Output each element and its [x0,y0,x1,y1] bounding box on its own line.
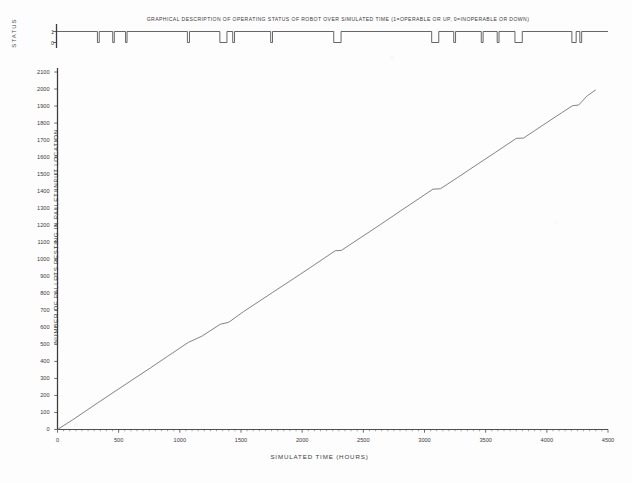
y-tick-label: 600 [24,324,50,330]
y-tick-label: 1300 [24,205,50,211]
y-tick-label: 800 [24,290,50,296]
pallets-data-line [58,90,596,430]
pallets-chart: NUMBER OF PALLETS RESTING IN PALLET INPU… [0,58,632,483]
status-plot-svg [0,8,632,60]
y-tick-label: 1000 [24,256,50,262]
x-tick-label: 2000 [287,437,317,443]
y-tick-label: 1700 [24,137,50,143]
y-tick-label: 1900 [24,103,50,109]
pallets-plot-svg [0,58,632,483]
x-tick-label: 0 [43,437,73,443]
y-tick-label: 100 [24,409,50,415]
y-tick-label: 0 [24,426,50,432]
y-tick-label: 1600 [24,154,50,160]
plot-page: GRAPHICAL DESCRIPTION OF OPERATING STATU… [0,0,632,483]
x-tick-label: 1500 [226,437,256,443]
x-tick-label: 1000 [165,437,195,443]
y-tick-label: 500 [24,341,50,347]
robot-status-chart: GRAPHICAL DESCRIPTION OF OPERATING STATU… [0,8,632,60]
y-tick-label: 1400 [24,188,50,194]
x-tick-label: 4000 [532,437,562,443]
x-tick-label: 3000 [410,437,440,443]
y-tick-label: 1200 [24,222,50,228]
x-tick-label: 2500 [348,437,378,443]
y-tick-label: 900 [24,273,50,279]
x-tick-label: 3500 [471,437,501,443]
x-tick-label: 4500 [593,437,623,443]
y-tick-label: 400 [24,358,50,364]
y-tick-label: 700 [24,307,50,313]
status-step-line [57,32,608,43]
x-tick-label: 500 [104,437,134,443]
y-tick-label: 300 [24,375,50,381]
y-tick-label: 2000 [24,86,50,92]
y-tick-label: 1500 [24,171,50,177]
y-tick-label: 1100 [24,239,50,245]
y-tick-label: 200 [24,392,50,398]
y-tick-label: 1800 [24,120,50,126]
y-tick-label: 2100 [24,69,50,75]
